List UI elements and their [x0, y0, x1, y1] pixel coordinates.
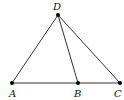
point-C [118, 81, 122, 85]
point-B [76, 81, 80, 85]
label-A: A [8, 88, 16, 99]
segment-DC [58, 15, 120, 83]
label-C: C [114, 88, 122, 99]
segment-AD [12, 15, 58, 83]
segment-DB [58, 15, 78, 83]
label-B: B [73, 88, 81, 99]
label-D: D [52, 1, 61, 12]
point-D [56, 13, 60, 17]
geometry-diagram: A B C D [0, 0, 124, 100]
point-A [10, 81, 14, 85]
